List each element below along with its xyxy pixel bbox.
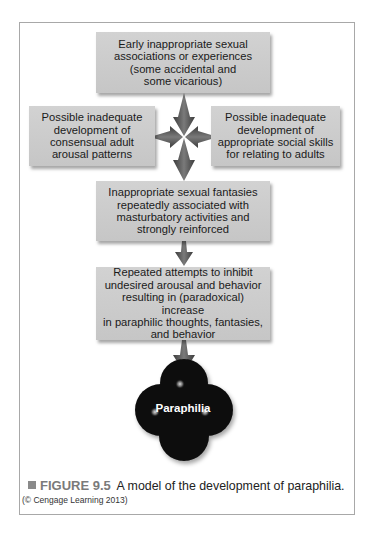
figure-caption: FIGURE 9.5 A model of the development of… xyxy=(28,478,345,493)
converging-arrows-icon xyxy=(150,93,218,181)
box-text: Possible inadequate development of appro… xyxy=(218,111,334,161)
box-adult-arousal: Possible inadequate development of conse… xyxy=(29,106,155,166)
box-text: Inappropriate sexual fantasies repeatedl… xyxy=(108,186,257,236)
figure-number: FIGURE 9.5 xyxy=(40,478,111,493)
box-inhibit: Repeated attempts to inhibit undesired a… xyxy=(96,267,270,340)
box-fantasies: Inappropriate sexual fantasies repeatedl… xyxy=(96,181,270,241)
box-text: Repeated attempts to inhibit undesired a… xyxy=(100,266,266,340)
box-text: Early inappropriate sexual associations … xyxy=(114,38,252,88)
box-social-skills: Possible inadequate development of appro… xyxy=(211,106,340,166)
box-early-experiences: Early inappropriate sexual associations … xyxy=(96,32,270,93)
caption-square-icon xyxy=(28,481,36,489)
paraphilia-label: Paraphilia xyxy=(133,402,233,414)
figure-credit: (© Cengage Learning 2013) xyxy=(22,495,128,505)
arrow-down-icon xyxy=(175,241,193,266)
box-text: Possible inadequate development of conse… xyxy=(42,111,143,161)
caption-text: A model of the development of paraphilia… xyxy=(117,479,345,493)
